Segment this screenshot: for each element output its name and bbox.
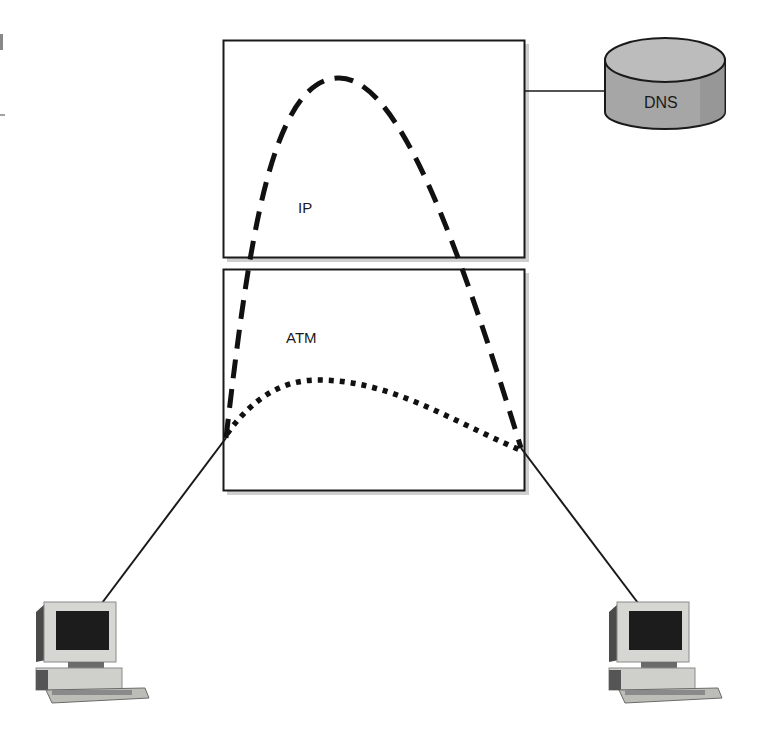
dns-server: DNS — [605, 38, 725, 129]
left-access-link — [102, 438, 226, 603]
dns-label: DNS — [644, 94, 678, 111]
host-right — [609, 602, 722, 703]
host-left — [36, 602, 149, 703]
computer-icon — [36, 602, 149, 703]
edge-mark — [0, 34, 3, 50]
atm-layer-box: ATM — [224, 270, 530, 496]
atm-layer-label: ATM — [286, 329, 317, 346]
ip-layer-label: IP — [298, 199, 312, 216]
ip-layer-box: IP — [224, 41, 530, 263]
computer-icon — [609, 602, 722, 703]
network-diagram: IP ATM DNS — [0, 0, 765, 733]
right-access-link — [521, 448, 638, 603]
